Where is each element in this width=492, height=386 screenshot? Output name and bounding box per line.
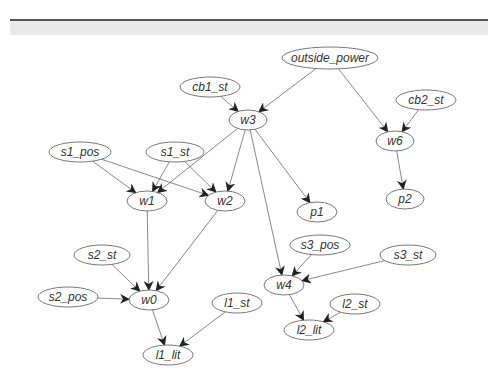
- dependency-graph: outside_powercb1_stw3cb2_stw6s1_poss1_st…: [0, 0, 492, 386]
- node-l2_st: l2_st: [330, 294, 380, 314]
- node-l1_st: l1_st: [212, 293, 262, 313]
- edge-s3_pos-to-w4: [292, 255, 311, 276]
- node-s3_st: s3_st: [380, 245, 436, 265]
- node-s2_pos: s2_pos: [38, 287, 98, 307]
- node-l1_lit: l1_lit: [143, 345, 193, 365]
- edge-w3-to-w2: [228, 130, 245, 191]
- node-l2_lit: l2_lit: [284, 320, 334, 340]
- node-w0: w0: [129, 290, 169, 310]
- edge-w6-to-p2: [397, 151, 404, 189]
- node-label: p1: [309, 205, 323, 219]
- edge-w2-to-w0: [156, 210, 218, 290]
- node-label: l2_lit: [297, 323, 322, 337]
- node-label: w4: [276, 278, 292, 292]
- node-label: l2_st: [342, 297, 368, 311]
- node-label: s1_st: [161, 145, 190, 159]
- edge-s2_st-to-w0: [112, 264, 140, 291]
- edge-w4-to-l2_lit: [289, 295, 303, 321]
- node-p1: p1: [297, 202, 337, 222]
- node-label: s2_st: [88, 248, 117, 262]
- node-cb2_st: cb2_st: [396, 90, 456, 110]
- node-label: outside_power: [291, 51, 370, 65]
- node-label: w2: [217, 194, 233, 208]
- node-s1_st: s1_st: [146, 142, 204, 162]
- edge-s1_st-to-w1: [152, 162, 169, 192]
- edge-cb1_st-to-w3: [221, 96, 238, 111]
- edge-w3-to-p1: [255, 129, 310, 202]
- node-s1_pos: s1_pos: [49, 142, 111, 162]
- node-label: s3_pos: [301, 238, 340, 252]
- edge-l2_st-to-l2_lit: [323, 312, 340, 322]
- node-label: s3_st: [394, 248, 423, 262]
- edge-w0-to-l1_lit: [152, 310, 164, 345]
- node-w4: w4: [264, 275, 304, 295]
- node-label: w0: [141, 293, 157, 307]
- node-label: w6: [387, 134, 403, 148]
- node-p2: p2: [386, 189, 424, 209]
- node-label: w3: [240, 113, 256, 127]
- node-label: cb1_st: [192, 80, 228, 94]
- node-label: s1_pos: [61, 145, 100, 159]
- node-w2: w2: [205, 191, 245, 211]
- edge-s2_pos-to-w0: [98, 298, 129, 299]
- edge-outside_power-to-w6: [338, 69, 387, 132]
- node-cb1_st: cb1_st: [180, 77, 240, 97]
- node-label: p2: [397, 192, 412, 206]
- node-s3_pos: s3_pos: [290, 235, 350, 255]
- node-outside_power: outside_power: [282, 47, 378, 69]
- node-w3: w3: [229, 110, 267, 130]
- node-s2_st: s2_st: [74, 245, 130, 265]
- edge-s1_pos-to-w1: [93, 161, 136, 193]
- node-label: l1_st: [224, 296, 250, 310]
- node-label: w1: [139, 194, 154, 208]
- node-label: l1_lit: [156, 348, 181, 362]
- node-w6: w6: [376, 131, 414, 151]
- edge-s3_st-to-w4: [302, 261, 385, 281]
- node-label: cb2_st: [408, 93, 444, 107]
- edge-outside_power-to-w3: [259, 69, 316, 112]
- edge-w3-to-w4: [250, 130, 282, 275]
- edge-s1_st-to-w2: [185, 161, 216, 192]
- node-w1: w1: [127, 191, 167, 211]
- edge-l1_st-to-l1_lit: [180, 312, 226, 346]
- edge-cb2_st-to-w6: [402, 110, 419, 132]
- edge-w1-to-w0: [147, 211, 149, 290]
- node-label: s2_pos: [49, 290, 88, 304]
